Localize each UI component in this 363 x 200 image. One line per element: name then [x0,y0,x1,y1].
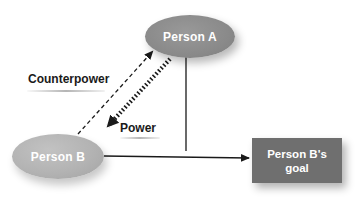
goal-label: Person B's goal [267,147,327,175]
power-label: Power [120,121,156,135]
person-b-node: Person B [12,134,104,179]
power-arrow [108,59,170,126]
person-b-label: Person B [31,150,85,164]
diagram-canvas: Person A Person B Person B's goal Counte… [0,0,363,200]
counterpower-underline [27,90,105,92]
counterpower-label: Counterpower [28,72,109,86]
goal-label-line1: Person B's [267,147,327,161]
person-b-goal-node: Person B's goal [252,138,342,183]
goal-label-line2: goal [267,161,327,175]
person-a-label: Person A [163,30,217,44]
power-underline [120,137,160,139]
person-a-node: Person A [145,15,235,58]
goal-arrow [104,156,249,158]
